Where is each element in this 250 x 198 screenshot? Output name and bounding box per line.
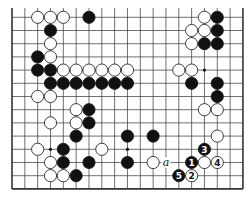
point-labels: a — [161, 156, 170, 169]
white-stone — [57, 64, 69, 76]
white-stone — [70, 64, 82, 76]
black-stone — [198, 38, 210, 50]
black-stone — [44, 77, 56, 89]
white-stone — [147, 156, 159, 168]
move-number: 4 — [214, 158, 220, 168]
black-stone-move-5: 5 — [173, 170, 185, 182]
star-point — [203, 69, 206, 72]
white-stone — [83, 64, 95, 76]
black-stone — [44, 64, 56, 76]
white-stone — [44, 170, 56, 182]
black-stone — [211, 11, 223, 23]
move-number: 1 — [188, 158, 194, 168]
black-stone — [83, 104, 95, 116]
black-stone — [83, 117, 95, 129]
move-number: 3 — [201, 145, 207, 155]
white-stone — [121, 64, 133, 76]
black-stone — [109, 77, 121, 89]
black-stone — [121, 77, 133, 89]
white-stone — [44, 117, 56, 129]
white-stone — [70, 117, 82, 129]
black-stone — [211, 90, 223, 102]
black-stone — [83, 11, 95, 23]
black-stone — [57, 156, 69, 168]
white-stone — [44, 156, 56, 168]
black-stone — [121, 156, 133, 168]
white-stone — [70, 104, 82, 116]
white-stone — [57, 170, 69, 182]
star-point — [49, 148, 52, 151]
white-stone — [186, 64, 198, 76]
point-label-a: a — [163, 156, 170, 169]
star-point — [126, 148, 129, 151]
move-number: 5 — [176, 171, 182, 181]
white-stone — [32, 143, 44, 155]
black-stone — [44, 24, 56, 36]
white-stone — [198, 24, 210, 36]
black-stone — [147, 130, 159, 142]
white-stone — [186, 38, 198, 50]
move-number: 2 — [188, 171, 194, 181]
black-stone — [211, 24, 223, 36]
white-stone — [198, 156, 210, 168]
black-stone — [57, 143, 69, 155]
white-stone — [186, 24, 198, 36]
white-stone — [198, 104, 210, 116]
white-stone — [32, 11, 44, 23]
black-stone-move-1: 1 — [186, 156, 198, 168]
white-stone-move-2: 2 — [186, 170, 198, 182]
white-stone — [32, 90, 44, 102]
white-stone — [211, 130, 223, 142]
white-stone — [96, 64, 108, 76]
black-stone — [70, 130, 82, 142]
white-stone — [44, 38, 56, 50]
black-stone — [211, 77, 223, 89]
black-stone-move-3: 3 — [198, 143, 210, 155]
black-stone — [70, 77, 82, 89]
black-stone — [32, 51, 44, 63]
black-stone — [211, 38, 223, 50]
white-stone — [57, 11, 69, 23]
black-stone — [57, 77, 69, 89]
white-stone — [211, 104, 223, 116]
black-stone — [121, 130, 133, 142]
black-stone — [32, 64, 44, 76]
white-stone — [44, 90, 56, 102]
go-board-diagram: 31452 a — [0, 0, 250, 198]
white-stone-move-4: 4 — [211, 156, 223, 168]
black-stone — [96, 77, 108, 89]
black-stone — [70, 170, 82, 182]
black-stone — [186, 77, 198, 89]
white-stone — [173, 64, 185, 76]
white-stone — [198, 11, 210, 23]
white-stone — [109, 64, 121, 76]
black-stone — [83, 77, 95, 89]
white-stone — [44, 51, 56, 63]
white-stone — [44, 11, 56, 23]
white-stone — [96, 143, 108, 155]
black-stone — [83, 156, 95, 168]
